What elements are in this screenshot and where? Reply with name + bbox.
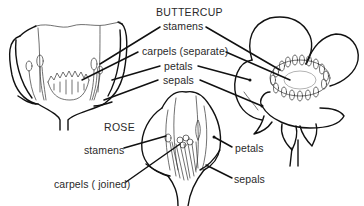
leader-buttercup-petals-left: [112, 66, 160, 80]
leader-rose-stamens: [124, 136, 166, 148]
leader-buttercup-sepals-left: [104, 80, 158, 100]
leader-buttercup-carpels-left: [82, 52, 138, 80]
buttercup-carpels-label: carpels (separate): [142, 45, 228, 57]
buttercup-petals-label: petals: [164, 60, 193, 72]
rose-carpels-label: carpels ( joined): [54, 178, 130, 190]
buttercup-section-drawing: [10, 22, 127, 130]
rose-section-drawing: [142, 92, 221, 206]
flower-structure-diagram: BUTTERCUP stamens carpels (separate) pet…: [0, 0, 364, 206]
stamen-cluster: [271, 55, 329, 101]
rose-sepals-label: sepals: [234, 173, 265, 185]
leader-rose-petals: [214, 137, 232, 147]
leader-buttercup-sepals-right: [200, 80, 262, 106]
rose-petals-label: petals: [235, 142, 264, 154]
leader-buttercup-petals-right: [198, 66, 250, 80]
rose-title: ROSE: [104, 121, 135, 133]
leader-rose-sepals: [206, 165, 232, 178]
buttercup-stamens-label: stamens: [163, 20, 203, 32]
leader-rose-carpels: [126, 144, 180, 182]
buttercup-title: BUTTERCUP: [156, 6, 223, 18]
rose-stamens-label: stamens: [84, 144, 124, 156]
buttercup-sepals-label: sepals: [163, 74, 194, 86]
